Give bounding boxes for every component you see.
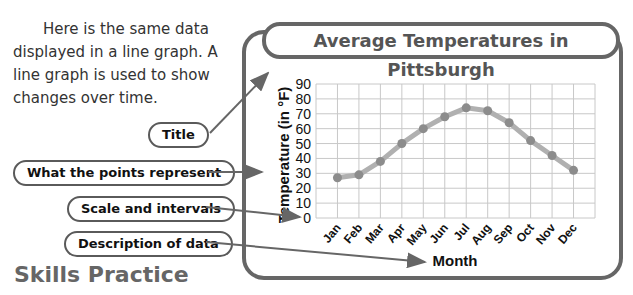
svg-text:20: 20 bbox=[295, 180, 311, 196]
svg-text:Oct: Oct bbox=[513, 221, 537, 245]
svg-text:Sep: Sep bbox=[491, 221, 516, 247]
svg-text:Temperature (in °F): Temperature (in °F) bbox=[275, 87, 292, 224]
svg-text:Feb: Feb bbox=[341, 221, 365, 246]
svg-text:80: 80 bbox=[295, 91, 311, 107]
svg-text:50: 50 bbox=[295, 136, 311, 152]
svg-text:Aug: Aug bbox=[468, 221, 494, 248]
svg-text:60: 60 bbox=[295, 121, 311, 137]
svg-text:90: 90 bbox=[295, 76, 311, 92]
svg-text:40: 40 bbox=[295, 150, 311, 166]
svg-text:30: 30 bbox=[295, 165, 311, 181]
svg-text:Jun: Jun bbox=[427, 221, 451, 246]
svg-text:May: May bbox=[404, 221, 430, 248]
svg-text:Dec: Dec bbox=[555, 221, 580, 247]
svg-text:Mar: Mar bbox=[362, 221, 387, 247]
svg-text:10: 10 bbox=[295, 195, 311, 211]
svg-text:Nov: Nov bbox=[533, 221, 559, 248]
line-chart: 0102030405060708090Temperature (in °F)Ja… bbox=[0, 0, 633, 295]
svg-text:Apr: Apr bbox=[384, 221, 408, 246]
svg-text:Jan: Jan bbox=[320, 221, 344, 246]
svg-text:70: 70 bbox=[295, 106, 311, 122]
svg-text:0: 0 bbox=[303, 210, 311, 226]
svg-text:Month: Month bbox=[433, 252, 478, 269]
